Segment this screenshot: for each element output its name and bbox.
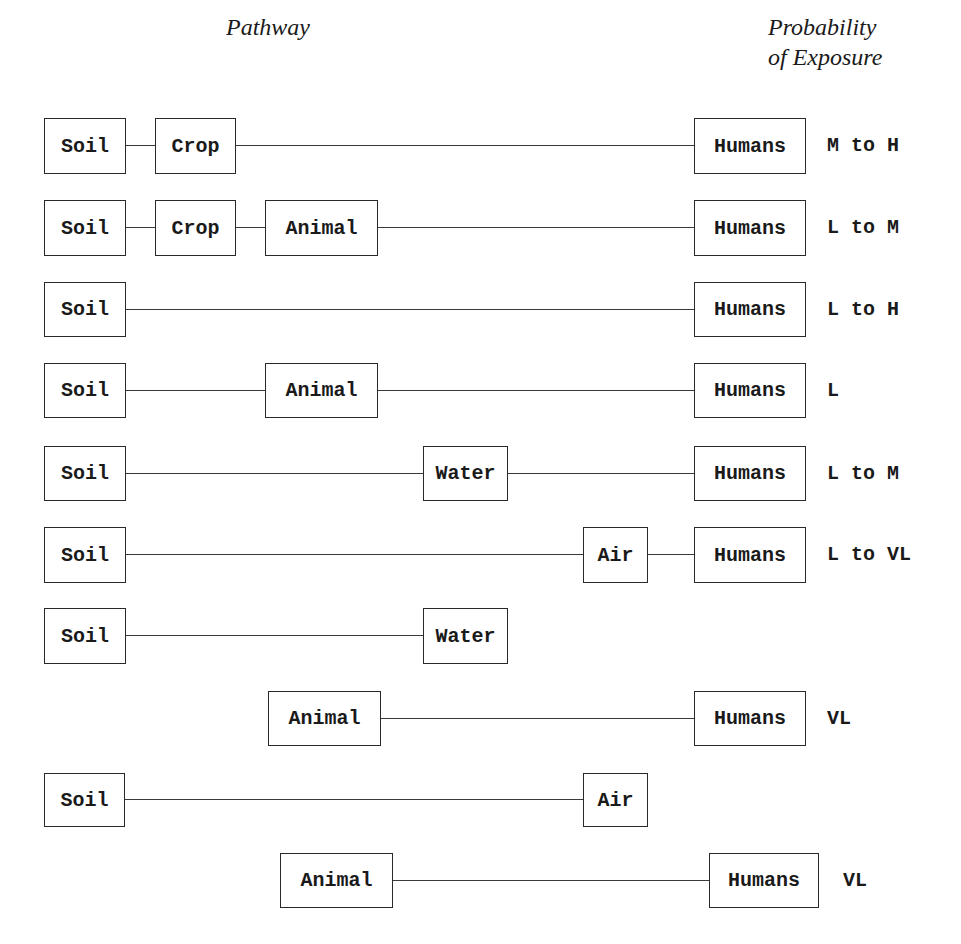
connector-line: [126, 145, 155, 146]
exposure-probability: L to H: [827, 298, 899, 322]
node-air: Air: [583, 527, 648, 583]
connector-line: [126, 554, 583, 555]
connector-line: [378, 390, 694, 391]
node-humans: Humans: [694, 527, 806, 583]
node-soil: Soil: [44, 773, 125, 827]
node-soil: Soil: [44, 200, 126, 256]
node-humans: Humans: [694, 282, 806, 337]
connector-line: [508, 473, 694, 474]
connector-line: [126, 390, 265, 391]
probability-header-line1: Probability: [768, 12, 882, 42]
node-crop: Crop: [155, 200, 236, 256]
connector-line: [236, 145, 694, 146]
probability-header-line2: of Exposure: [768, 42, 882, 72]
connector-line: [236, 227, 265, 228]
node-soil: Soil: [44, 363, 126, 418]
node-air: Air: [583, 773, 648, 827]
node-soil: Soil: [44, 118, 126, 174]
connector-line: [126, 635, 423, 636]
node-crop: Crop: [155, 118, 236, 174]
exposure-probability: VL: [827, 707, 851, 731]
node-animal: Animal: [265, 363, 378, 418]
node-animal: Animal: [268, 691, 381, 746]
connector-line: [378, 227, 694, 228]
node-soil: Soil: [44, 446, 126, 501]
node-humans: Humans: [694, 363, 806, 418]
connector-line: [393, 880, 709, 881]
connector-line: [125, 799, 583, 800]
node-humans: Humans: [694, 446, 806, 501]
node-soil: Soil: [44, 527, 126, 583]
node-animal: Animal: [280, 853, 393, 908]
node-soil: Soil: [44, 282, 126, 337]
exposure-probability: M to H: [827, 134, 899, 158]
node-humans: Humans: [694, 691, 806, 746]
connector-line: [126, 227, 155, 228]
node-animal: Animal: [265, 200, 378, 256]
probability-header: Probability of Exposure: [768, 12, 882, 72]
pathway-header: Pathway: [226, 12, 310, 42]
node-humans: Humans: [694, 200, 806, 256]
exposure-probability: L: [827, 379, 839, 403]
connector-line: [381, 718, 694, 719]
exposure-probability: L to VL: [827, 543, 911, 567]
exposure-probability: L to M: [827, 462, 899, 486]
node-humans: Humans: [709, 853, 819, 908]
exposure-probability: VL: [843, 869, 867, 893]
connector-line: [126, 473, 423, 474]
node-humans: Humans: [694, 118, 806, 174]
connector-line: [648, 554, 694, 555]
node-water: Water: [423, 446, 508, 501]
connector-line: [126, 309, 694, 310]
node-water: Water: [423, 608, 508, 664]
node-soil: Soil: [44, 608, 126, 664]
exposure-probability: L to M: [827, 216, 899, 240]
